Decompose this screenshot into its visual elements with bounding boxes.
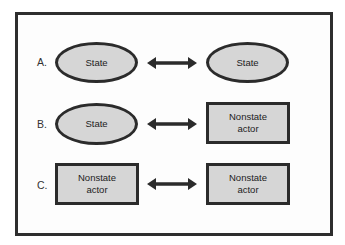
- node-text: State: [85, 118, 107, 130]
- row-c-right-nonstate-node: Nonstate actor: [206, 163, 290, 205]
- row-c-label: C.: [37, 179, 53, 191]
- row-b-right-nonstate-node: Nonstate actor: [206, 102, 290, 144]
- bidirectional-arrow-icon: [147, 57, 197, 69]
- node-text: Nonstate actor: [218, 111, 278, 135]
- row-c-left-nonstate-node: Nonstate actor: [55, 163, 139, 205]
- row-b-label: B.: [37, 118, 53, 130]
- node-text: Nonstate actor: [218, 172, 278, 196]
- row-b-left-state-node: State: [55, 103, 138, 145]
- node-text: State: [236, 57, 258, 69]
- row-a-right-state-node: State: [206, 42, 289, 83]
- row-a-label: A.: [37, 56, 53, 68]
- bidirectional-arrow-icon: [147, 118, 197, 130]
- node-text: Nonstate actor: [67, 172, 127, 196]
- node-text: State: [85, 57, 107, 69]
- bidirectional-arrow-icon: [147, 178, 197, 190]
- row-a-left-state-node: State: [55, 42, 138, 83]
